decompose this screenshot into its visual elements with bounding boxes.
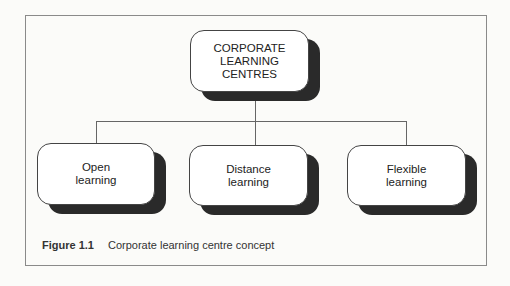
connector-horizontal [96,121,407,122]
connector-flexible [406,121,407,145]
child-node-box: Open learning [37,143,155,205]
connector-open [96,121,97,144]
figure-caption: Figure 1.1Corporate learning centre conc… [42,239,274,251]
figure-number: Figure 1.1 [42,239,94,251]
connector-distance [255,121,256,145]
figure-caption-text: Corporate learning centre concept [108,239,274,251]
root-node-box: CORPORATE LEARNING CENTRES [190,30,309,92]
child-node-box: Distance learning [189,145,308,206]
child-node-box: Flexible learning [347,145,466,206]
